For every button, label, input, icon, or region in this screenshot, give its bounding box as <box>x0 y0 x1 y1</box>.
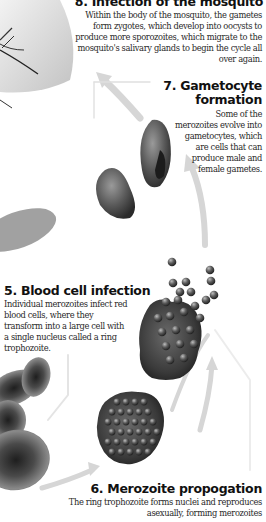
merozoite <box>182 278 191 287</box>
merozoite <box>166 356 175 365</box>
schizont-nucleus <box>123 399 130 406</box>
merozoite <box>206 266 215 275</box>
schizont-nucleus <box>105 419 112 426</box>
stage-8-description: Within the body of the mosquito, the gam… <box>72 10 262 65</box>
gametocyte-cells <box>96 120 171 219</box>
schizont-nucleus <box>136 409 143 416</box>
schizont-nucleus <box>145 429 152 436</box>
schizont-nucleus <box>132 419 139 426</box>
stage-6-title: 6. Merozoite propogation <box>90 481 262 496</box>
schizont-nucleus <box>109 449 116 456</box>
merozoite <box>210 291 219 300</box>
schizont-nucleus <box>127 409 134 416</box>
merozoite <box>186 326 195 335</box>
schizont-nucleus <box>118 449 125 456</box>
merozoite <box>187 288 196 297</box>
schizont-nucleus <box>136 429 143 436</box>
schizont-nucleus <box>114 419 121 426</box>
stage-6-description: The ring trophozoite forms nuclei and re… <box>32 497 262 519</box>
stage-5-title: 5. Blood cell infection <box>4 283 150 298</box>
merozoite <box>191 302 200 311</box>
merozoite <box>168 258 177 267</box>
merozoite <box>162 298 171 307</box>
stage-7-title: 7. Gametocyte formation <box>152 79 262 107</box>
schizont-nucleus <box>127 449 134 456</box>
schizont-nucleus <box>109 409 116 416</box>
merozoite <box>180 308 189 317</box>
merozoite <box>176 340 185 349</box>
merozoite <box>158 328 167 337</box>
schizont-nucleus <box>118 429 125 436</box>
merozoite <box>162 342 171 351</box>
schizont-nucleus <box>105 439 112 446</box>
merozoite <box>169 279 178 288</box>
schizont-nucleus <box>150 419 157 426</box>
schizont-nucleus <box>114 439 121 446</box>
merozoite <box>190 340 199 349</box>
merozoite <box>202 296 211 305</box>
merozoite <box>180 354 189 363</box>
schizont-nucleus <box>123 439 130 446</box>
merozoite <box>174 296 183 305</box>
schizont-nucleus <box>150 439 157 446</box>
schizont-nucleus <box>145 409 152 416</box>
schizont-nucleus <box>141 399 148 406</box>
stage-8-title: 8. Infection of the mosquito <box>75 0 263 9</box>
schizont-nucleus <box>118 409 125 416</box>
merozoite <box>176 288 185 297</box>
schizont-nucleus <box>123 419 130 426</box>
schizont-nucleus <box>141 439 148 446</box>
merozoite <box>207 277 216 286</box>
schizont-nucleus <box>141 419 148 426</box>
schizont-nucleus <box>109 429 116 436</box>
schizont-nucleus <box>114 399 121 406</box>
merozoite <box>196 314 205 323</box>
schizont-nucleus <box>145 449 152 456</box>
merozoite <box>166 312 175 321</box>
stage-7-description: Some of the merozoites evolve into gamet… <box>172 109 262 175</box>
schizont-nucleus <box>127 429 134 436</box>
merozoite <box>154 314 163 323</box>
mosquito-illustration <box>0 0 73 108</box>
schizont-nucleus <box>136 449 143 456</box>
schizont-nucleus <box>132 439 139 446</box>
schizont-cell <box>97 392 164 465</box>
schizont-nucleus <box>154 429 161 436</box>
bursting-cell <box>139 258 218 380</box>
schizont-nucleus <box>132 399 139 406</box>
stage-5-description: Individual merozoites infect red blood c… <box>4 299 128 354</box>
merozoite <box>172 326 181 335</box>
